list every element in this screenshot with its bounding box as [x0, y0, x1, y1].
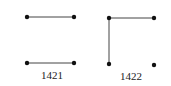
vertex-dot: [107, 16, 111, 20]
vertex-dot: [72, 15, 76, 19]
vertex-dot: [25, 15, 29, 19]
diagram-label-1422: 1422: [120, 70, 142, 82]
vertex-dot: [72, 61, 76, 65]
vertex-dot: [107, 62, 111, 66]
diagram-canvas: 1421 1422: [0, 0, 171, 86]
diagram-1422: [107, 16, 156, 67]
vertex-dot: [152, 63, 156, 67]
diagram-label-1421: 1421: [41, 69, 63, 81]
vertex-dot: [152, 16, 156, 20]
vertex-dot: [25, 61, 29, 65]
diagram-1421: [25, 15, 76, 65]
